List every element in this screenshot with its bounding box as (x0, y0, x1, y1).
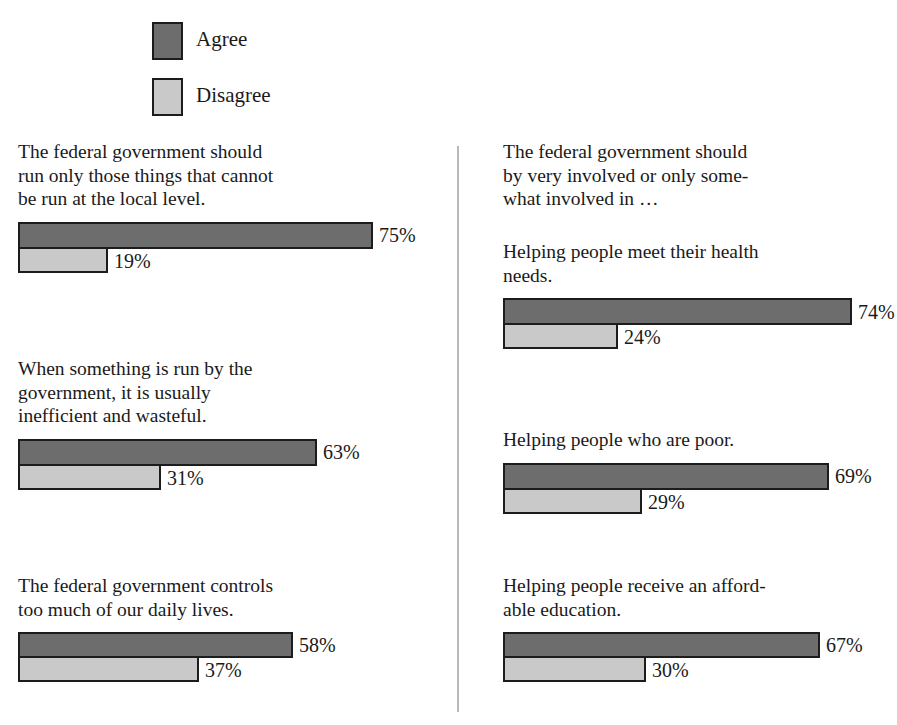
question-text: The federal government controls too much… (18, 574, 448, 621)
bar-agree (18, 632, 293, 658)
bar-group: 67% 30% (503, 632, 897, 682)
bar-row: 30% (503, 658, 897, 682)
legend-swatch-disagree-icon (152, 78, 183, 116)
question-group-right-1: Helping people meet their health needs. … (503, 240, 897, 349)
question-group-left-3: The federal government controls too much… (18, 574, 448, 682)
legend-swatch-agree-icon (152, 22, 183, 60)
question-group-left-2: When something is run by the government,… (18, 357, 448, 490)
bar-agree (18, 439, 317, 466)
bar-row: 37% (18, 658, 448, 682)
bar-somewhat-involved (503, 490, 642, 514)
question-group-right-3: Helping people receive an afford- able e… (503, 574, 897, 682)
question-text: When something is run by the government,… (18, 357, 448, 428)
question-group-right-2: Helping people who are poor. 69% 29% (503, 428, 897, 514)
bar-value-agree: 63% (317, 442, 360, 462)
bar-row: 19% (18, 249, 448, 273)
bar-agree (18, 222, 373, 249)
bar-row: 67% (503, 632, 897, 658)
question-text: Helping people meet their health needs. (503, 240, 897, 287)
intro-text: The federal government should by very in… (503, 140, 897, 211)
chart-canvas: Agree Disagree The federal government sh… (0, 0, 897, 725)
bar-row: 63% (18, 439, 448, 466)
bar-row: 58% (18, 632, 448, 658)
bar-disagree (18, 249, 108, 273)
bar-value-agree: 58% (293, 635, 336, 655)
bar-value-somewhat-involved: 30% (646, 660, 689, 680)
bar-row: 29% (503, 490, 897, 514)
bar-value-disagree: 19% (108, 250, 151, 270)
bar-somewhat-involved (503, 658, 646, 682)
bar-disagree (18, 658, 199, 682)
bar-value-agree: 75% (373, 225, 416, 245)
panel-agree-disagree: Agree Disagree The federal government sh… (0, 0, 457, 725)
bar-group: 69% 29% (503, 463, 897, 514)
bar-row: 69% (503, 463, 897, 490)
bar-row: 24% (503, 325, 897, 349)
bar-value-somewhat-involved: 29% (642, 491, 685, 511)
bar-very-involved (503, 632, 820, 658)
bar-group: 74% 24% (503, 298, 897, 349)
bar-value-very-involved: 67% (820, 635, 863, 655)
bar-somewhat-involved (503, 325, 618, 349)
bar-value-very-involved: 74% (852, 301, 895, 321)
bar-value-somewhat-involved: 24% (618, 327, 661, 347)
question-text: Helping people who are poor. (503, 428, 897, 452)
panel-involvement: Very involved Somewhat involved The fede… (459, 0, 897, 725)
legend-entry-disagree: Disagree (152, 78, 271, 116)
panel-intro: The federal government should by very in… (503, 140, 897, 211)
bar-value-disagree: 31% (161, 467, 204, 487)
question-text: Helping people receive an afford- able e… (503, 574, 897, 621)
legend-label-disagree: Disagree (196, 78, 271, 106)
bar-very-involved (503, 463, 829, 490)
bar-very-involved (503, 298, 852, 325)
bar-row: 74% (503, 298, 897, 325)
bar-disagree (18, 466, 161, 490)
question-group-left-1: The federal government should run only t… (18, 140, 448, 273)
legend-left: Agree Disagree (152, 22, 271, 134)
bar-row: 31% (18, 466, 448, 490)
bar-group: 58% 37% (18, 632, 448, 682)
bar-value-very-involved: 69% (829, 466, 872, 486)
bar-row: 75% (18, 222, 448, 249)
bar-group: 75% 19% (18, 222, 448, 273)
legend-entry-agree: Agree (152, 22, 271, 60)
question-text: The federal government should run only t… (18, 140, 448, 211)
bar-value-disagree: 37% (199, 660, 242, 680)
legend-label-agree: Agree (196, 22, 247, 50)
bar-group: 63% 31% (18, 439, 448, 490)
